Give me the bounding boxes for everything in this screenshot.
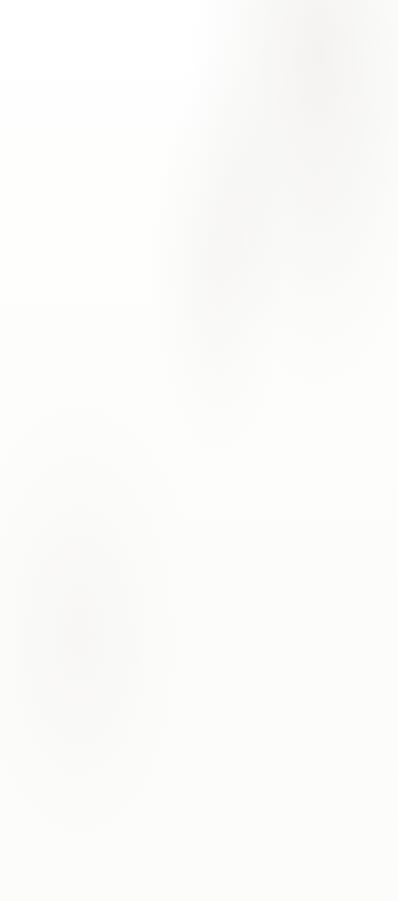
x-tick-label: -20 <box>75 323 84 330</box>
option-d-graph: -20020-2020 <box>36 637 235 827</box>
top-edge-scan-artifact <box>34 1 239 8</box>
option-c-graph: -20020-2020 <box>36 431 235 623</box>
x-tick-label: 20 <box>191 734 198 741</box>
y-tick-label: -20 <box>123 375 132 382</box>
y-tick-label: 20 <box>125 260 132 267</box>
page-footer: 52 © Lumos Information Services 2018 | L… <box>0 826 398 901</box>
x-tick-label: 20 <box>191 116 198 123</box>
y-tick-label: -20 <box>123 172 132 179</box>
option-b-graph: -20020-2020 <box>36 228 235 414</box>
x-tick-label: 0 <box>138 529 142 536</box>
option-b-letter: B <box>9 230 31 252</box>
x-tick-label: 0 <box>138 116 142 123</box>
x-tick-label: 0 <box>138 323 142 330</box>
x-tick-label: 20 <box>191 529 198 536</box>
y-tick-label: 20 <box>125 49 132 56</box>
x-tick-label: 0 <box>138 734 142 741</box>
option-a-letter: A <box>9 19 31 41</box>
y-tick-label: -20 <box>123 583 132 590</box>
x-tick-label: -20 <box>75 529 84 536</box>
x-tick-label: -20 <box>75 116 84 123</box>
option-c[interactable]: C-20020-2020 <box>0 431 398 623</box>
x-tick-label: -20 <box>75 734 84 741</box>
option-d[interactable]: D-20020-2020 <box>0 637 398 827</box>
option-a[interactable]: A-20020-2020 <box>0 15 398 213</box>
option-b[interactable]: B-20020-2020 <box>0 228 398 414</box>
y-tick-label: 20 <box>125 670 132 677</box>
option-a-graph: -20020-2020 <box>36 15 235 213</box>
right-margin-scan-artifact <box>284 6 298 52</box>
option-d-letter: D <box>9 639 31 661</box>
y-tick-label: 20 <box>125 464 132 471</box>
option-c-letter: C <box>9 433 31 455</box>
